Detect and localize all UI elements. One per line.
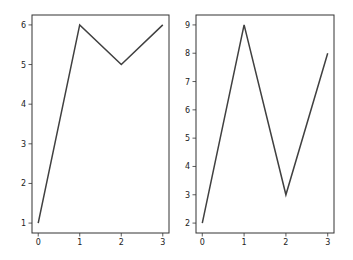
y-tick-label: 9 [185, 21, 190, 30]
y-tick-label: 4 [21, 100, 26, 109]
y-tick-label: 6 [185, 106, 190, 115]
y-tick-label: 1 [21, 219, 26, 228]
x-tick-label: 2 [283, 238, 288, 247]
y-tick-label: 2 [185, 219, 190, 228]
axes-frame [196, 15, 334, 233]
x-tick-label: 3 [325, 238, 330, 247]
x-tick-label: 0 [36, 238, 41, 247]
x-tick-label: 1 [242, 238, 247, 247]
y-tick-label: 5 [185, 134, 190, 143]
x-tick-label: 3 [160, 238, 165, 247]
y-tick-label: 3 [21, 140, 26, 149]
data-line [38, 25, 163, 223]
y-tick-label: 7 [185, 78, 190, 87]
x-tick-label: 1 [77, 238, 82, 247]
y-tick-label: 6 [21, 21, 26, 30]
x-tick-label: 2 [119, 238, 124, 247]
data-line [202, 25, 327, 223]
y-tick-label: 4 [185, 162, 190, 171]
axes-frame [32, 15, 169, 233]
x-tick-label: 0 [200, 238, 205, 247]
y-tick-label: 2 [21, 179, 26, 188]
y-tick-label: 8 [185, 49, 190, 58]
left-subplot: 0123123456 [21, 15, 169, 247]
y-tick-label: 3 [185, 191, 190, 200]
right-subplot: 012323456789 [185, 15, 334, 247]
figure: 0123123456 012323456789 [0, 0, 353, 260]
y-tick-label: 5 [21, 61, 26, 70]
